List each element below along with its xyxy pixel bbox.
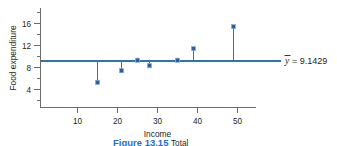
data-point[interactable] [147, 64, 151, 68]
mean-label-value: = 9.1429 [292, 56, 327, 66]
caption-figure-text: Total [171, 139, 188, 146]
figure-container: 16 12 8 4 10 20 30 40 50 Income Food exp… [0, 0, 337, 146]
y-tick-label-4: 4 [26, 86, 31, 95]
x-tick-label-50: 50 [233, 117, 243, 126]
y-tick-label-8: 8 [26, 64, 31, 73]
deviation-stems [98, 27, 234, 83]
y-tick-label-16: 16 [22, 20, 32, 29]
x-tick-label-20: 20 [113, 117, 123, 126]
mean-line-label: y = 9.1429 [284, 56, 327, 67]
figure-caption: Figure 13.15 Total [113, 137, 188, 146]
x-tick-label-10: 10 [73, 117, 83, 126]
data-points [95, 25, 235, 85]
x-tick-label-40: 40 [193, 117, 203, 126]
x-axis-ticks [78, 108, 238, 114]
data-point[interactable] [95, 80, 99, 84]
caption-figure-number: Figure 13.15 [113, 137, 169, 146]
y-axis-title: Food expenditure [8, 25, 18, 91]
y-tick-label-12: 12 [22, 42, 32, 51]
x-tick-label-30: 30 [153, 117, 163, 126]
data-point[interactable] [231, 25, 235, 29]
data-point[interactable] [119, 69, 123, 73]
data-point[interactable] [135, 58, 139, 62]
data-point[interactable] [175, 58, 179, 62]
mean-label-ybar-symbol: y [284, 56, 290, 66]
scatter-plot: 16 12 8 4 10 20 30 40 50 Income Food exp… [0, 0, 337, 146]
data-point[interactable] [191, 47, 195, 51]
